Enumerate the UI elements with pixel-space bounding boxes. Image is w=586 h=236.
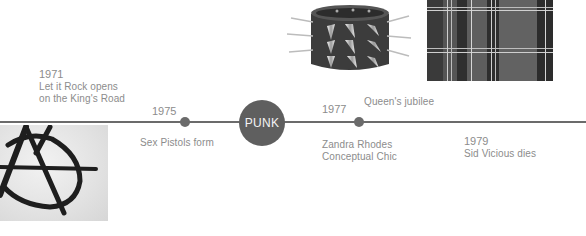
event-text-line1: Let it Rock opens <box>39 81 125 93</box>
event-text-line2: on the King's Road <box>39 93 125 105</box>
event-1977-text: Queen's jubilee <box>364 96 434 108</box>
event-zandra-rhodes: Zandra Rhodes Conceptual Chic <box>322 139 397 163</box>
timeline-line <box>0 121 586 123</box>
tartan-plaid-image <box>427 0 553 81</box>
event-1975-text: Sex Pistols form <box>140 137 214 149</box>
event-1977-year: 1977 <box>322 103 346 116</box>
event-year: 1979 <box>464 135 536 148</box>
event-year: 1971 <box>39 68 125 81</box>
punk-label: PUNK <box>245 116 280 130</box>
timeline-dot-1975 <box>180 117 190 127</box>
event-text-line1: Sid Vicious dies <box>464 148 536 160</box>
event-1975-year: 1975 <box>152 105 176 118</box>
timeline-dot-1977 <box>354 117 364 127</box>
event-1979: 1979 Sid Vicious dies <box>464 135 536 160</box>
spiked-bracelet-image <box>285 0 413 78</box>
event-text-line2: Conceptual Chic <box>322 151 397 163</box>
punk-center-circle: PUNK <box>239 100 285 146</box>
event-text-line1: Zandra Rhodes <box>322 139 397 151</box>
event-1971: 1971 Let it Rock opens on the King's Roa… <box>39 68 125 105</box>
anarchy-symbol-image <box>0 125 108 221</box>
